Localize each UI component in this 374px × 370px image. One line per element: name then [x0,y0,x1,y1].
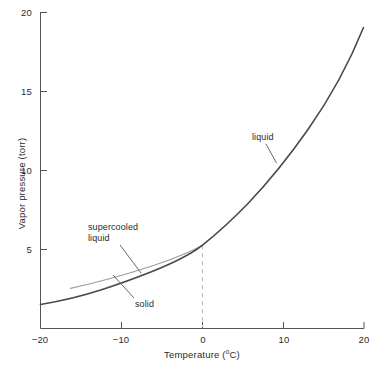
vapor-pressure-chart: 20 15 10 5 −20 −10 0 10 20 Vapor pressur… [0,0,374,370]
x-tick-label-10: 10 [267,335,301,345]
supercooled-liquid-leader-line [120,245,141,273]
x-axis-title-tail: C) [230,349,240,360]
annotation-supercooled-liquid: supercooled liquid [88,222,138,244]
x-axis-title-main: Temperature ( [164,349,226,360]
liquid-leader-line [266,144,277,163]
y-axis-ticks [41,13,48,250]
annotation-liquid: liquid [252,132,274,143]
annotation-supercooled-line1: supercooled [88,222,138,233]
y-tick-label-15: 15 [6,87,32,97]
chart-canvas [0,0,374,370]
y-axis-title: Vapor pressure (torr) [16,119,27,249]
x-tick-label-20: 20 [347,335,374,345]
annotation-solid: solid [135,299,154,310]
x-axis-title: Temperature (oC) [127,349,277,360]
solid-leader-line [113,275,134,298]
annotation-supercooled-line2: liquid [88,233,138,244]
x-tick-label-minus10: −10 [104,335,138,345]
x-tick-label-minus20: −20 [23,335,57,345]
y-tick-label-20: 20 [6,8,32,18]
x-tick-label-0: 0 [186,335,220,345]
